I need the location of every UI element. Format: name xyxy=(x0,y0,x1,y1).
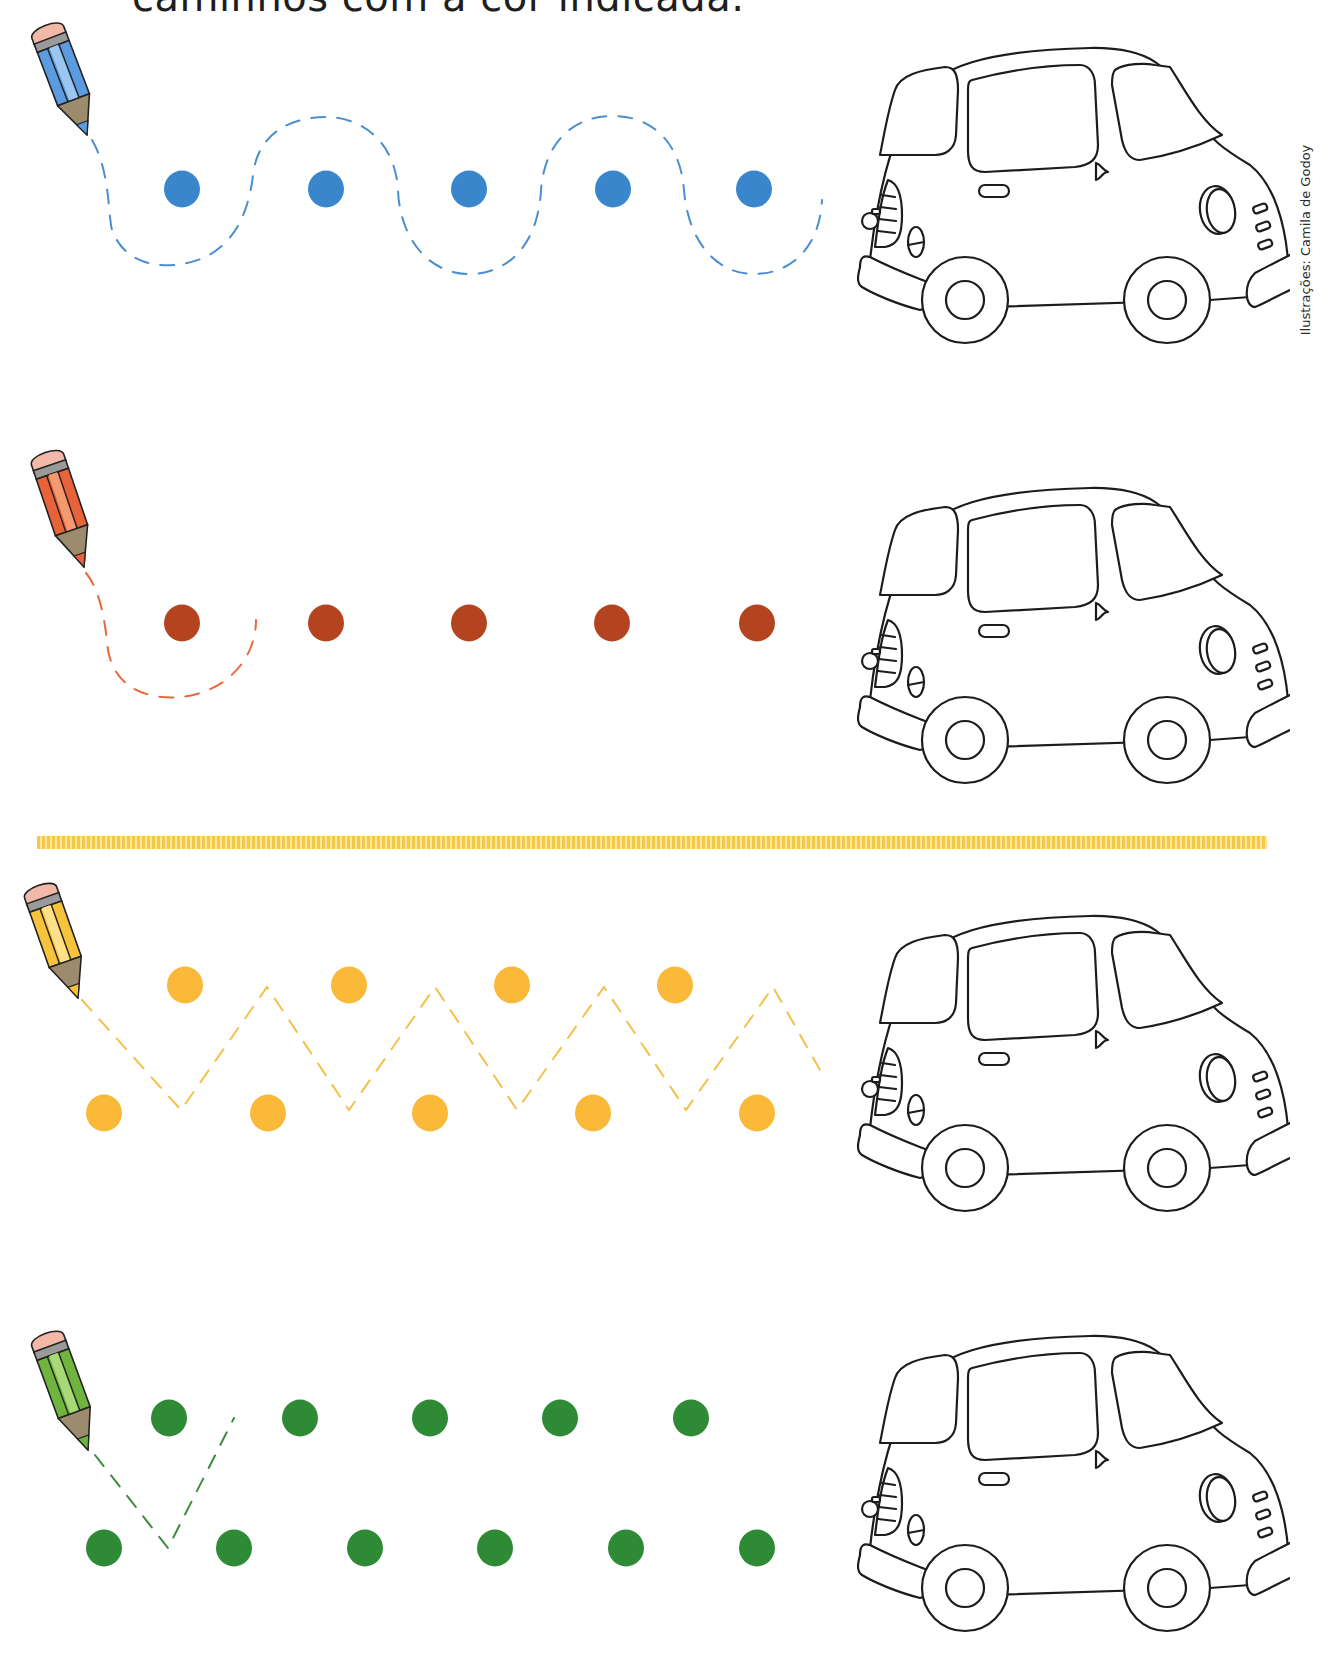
guide-dot xyxy=(308,171,344,208)
car-outline-icon xyxy=(858,48,1296,343)
blue-pencil-icon xyxy=(29,19,103,141)
guide-dot xyxy=(542,1400,578,1437)
guide-dot xyxy=(167,967,203,1004)
pencil-lead xyxy=(74,552,90,569)
dashed-trace-path xyxy=(82,987,820,1110)
guide-dot xyxy=(608,1530,644,1567)
guide-dot xyxy=(739,605,775,642)
guide-dot xyxy=(331,967,367,1004)
guide-dot xyxy=(739,1530,775,1567)
guide-dot xyxy=(282,1400,318,1437)
guide-dot xyxy=(347,1530,383,1567)
guide-dot xyxy=(494,967,530,1004)
guide-dot xyxy=(250,1095,286,1132)
yellow-pencil-icon xyxy=(22,880,94,1004)
exercise-row-4 xyxy=(29,1328,1296,1631)
guide-dot xyxy=(151,1400,187,1437)
guide-dot xyxy=(86,1095,122,1132)
guide-dot xyxy=(86,1530,122,1567)
car-outline-icon xyxy=(858,916,1296,1211)
guide-dot xyxy=(308,605,344,642)
guide-dot xyxy=(477,1530,513,1567)
guide-dot xyxy=(595,171,631,208)
guide-dot xyxy=(739,1095,775,1132)
guide-dot xyxy=(164,171,200,208)
worksheet-canvas xyxy=(0,0,1339,1653)
guide-dot xyxy=(451,605,487,642)
guide-dot xyxy=(451,171,487,208)
car-outline-icon xyxy=(858,1336,1296,1631)
guide-dot xyxy=(412,1400,448,1437)
guide-dot xyxy=(736,171,772,208)
guide-dot xyxy=(164,605,200,642)
green-pencil-icon xyxy=(29,1328,104,1456)
dashed-trace-path xyxy=(95,1418,234,1548)
exercise-row-2 xyxy=(29,447,1296,783)
guide-dot xyxy=(673,1400,709,1437)
exercise-row-3 xyxy=(22,880,1296,1211)
guide-dot xyxy=(216,1530,252,1567)
exercise-row-1 xyxy=(29,19,1296,343)
red-pencil-icon xyxy=(29,447,100,572)
guide-dot xyxy=(657,967,693,1004)
car-outline-icon xyxy=(858,488,1296,783)
guide-dot xyxy=(594,605,630,642)
guide-dot xyxy=(575,1095,611,1132)
guide-dot xyxy=(412,1095,448,1132)
